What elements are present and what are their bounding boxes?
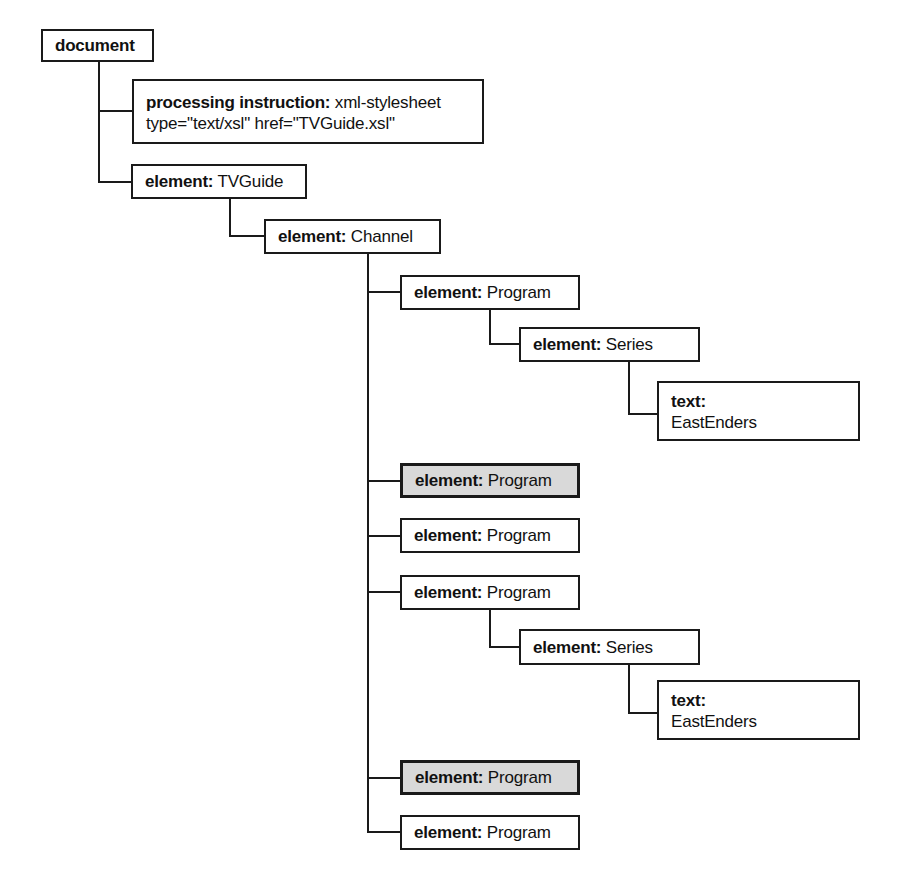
node-element-program-3-label: element: [414,526,482,545]
edge-series-1-to-text-1 [628,413,660,415]
node-element-tvguide[interactable]: element: TVGuide [131,164,307,199]
node-element-program-4-value: Program [482,583,550,602]
node-document[interactable]: document [41,29,154,62]
node-document-label: document [55,36,135,55]
edge-program-4-to-series-2 [489,646,522,648]
node-text-eastenders-2-label: text: [671,690,858,711]
edge-tvguide-to-channel [229,235,266,237]
node-element-program-5[interactable]: element: Program [400,760,580,795]
edge-program-1-to-series-1 [489,343,522,345]
edge-document-to-tvguide [98,181,133,183]
edge-series-2-trunk [628,665,630,714]
node-text-eastenders-1-value: EastEnders [671,412,858,433]
node-element-program-1-label: element: [414,283,482,302]
node-element-tvguide-label: element: [145,172,213,191]
node-processing-instruction-label: processing instruction: [146,93,330,112]
edge-series-2-to-text-2 [628,712,660,714]
node-element-tvguide-text: element: TVGuide [145,171,305,192]
dom-tree-diagram: document processing instruction: xml-sty… [0,0,898,890]
node-processing-instruction-text-line1: processing instruction: xml-stylesheet [146,92,482,113]
edge-program-1-trunk [489,310,491,345]
node-element-program-6-label: element: [414,823,482,842]
node-element-series-2-value: Series [601,638,653,657]
node-element-program-6[interactable]: element: Program [400,815,580,850]
node-element-channel-label: element: [278,227,346,246]
node-element-program-4-text: element: Program [414,582,578,603]
node-element-program-2-value: Program [483,471,551,490]
node-element-tvguide-value: TVGuide [213,172,283,191]
node-processing-instruction-value: xml-stylesheet [330,93,440,112]
node-element-series-1-text: element: Series [533,334,698,355]
node-element-program-1-text: element: Program [414,282,578,303]
edge-channel-to-program-1 [367,291,402,293]
node-element-channel[interactable]: element: Channel [264,219,441,254]
edge-tvguide-trunk [229,199,231,237]
node-element-program-1[interactable]: element: Program [400,275,580,310]
node-element-program-2[interactable]: element: Program [400,463,580,498]
node-text-eastenders-2[interactable]: text: EastEnders [657,680,860,740]
node-text-eastenders-1-label: text: [671,391,858,412]
edge-channel-trunk [367,254,369,833]
node-element-program-2-text: element: Program [415,470,577,491]
edge-channel-to-program-6 [367,831,402,833]
node-element-program-3-text: element: Program [414,525,578,546]
edge-document-to-processing-instruction [98,110,134,112]
node-element-program-6-text: element: Program [414,822,578,843]
node-element-series-2-label: element: [533,638,601,657]
node-element-program-4[interactable]: element: Program [400,575,580,610]
node-element-program-2-label: element: [415,471,483,490]
node-element-program-5-label: element: [415,768,483,787]
node-processing-instruction[interactable]: processing instruction: xml-stylesheet t… [132,79,484,144]
node-text-eastenders-2-value: EastEnders [671,711,858,732]
node-element-program-3-value: Program [482,526,550,545]
node-element-channel-text: element: Channel [278,226,439,247]
node-element-program-6-value: Program [482,823,550,842]
node-element-program-5-value: Program [483,768,551,787]
edge-channel-to-program-3 [367,535,402,537]
node-element-program-5-text: element: Program [415,767,577,788]
node-element-series-2[interactable]: element: Series [519,629,700,665]
node-document-text: document [55,35,152,56]
node-element-program-1-value: Program [482,283,550,302]
node-element-channel-value: Channel [346,227,412,246]
node-element-program-4-label: element: [414,583,482,602]
edge-channel-to-program-2 [367,480,402,482]
node-element-program-3[interactable]: element: Program [400,518,580,553]
edge-document-trunk [98,61,100,183]
node-element-series-1[interactable]: element: Series [519,327,700,362]
node-element-series-2-text: element: Series [533,637,698,658]
node-text-eastenders-1[interactable]: text: EastEnders [657,381,860,441]
edge-program-4-trunk [489,610,491,648]
node-processing-instruction-text-line2: type="text/xsl" href="TVGuide.xsl" [146,113,482,134]
edge-channel-to-program-4 [367,591,402,593]
node-element-series-1-value: Series [601,335,653,354]
node-element-series-1-label: element: [533,335,601,354]
edge-channel-to-program-5 [367,777,402,779]
edge-series-1-trunk [628,362,630,415]
